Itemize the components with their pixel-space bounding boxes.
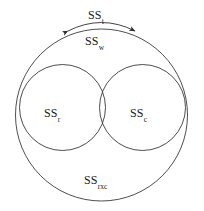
label-ss-rows: SSr xyxy=(44,107,60,122)
left-circle-rows xyxy=(20,65,106,151)
label-ss-within: SSw xyxy=(85,35,104,50)
label-ss-columns-base: SS xyxy=(130,106,143,120)
label-ss-columns: SSc xyxy=(130,107,147,122)
label-ss-total: SSt xyxy=(88,9,103,24)
label-ss-rows-subscript: r xyxy=(58,115,61,124)
label-ss-total-base: SS xyxy=(88,8,101,22)
label-ss-interaction: SSrxc xyxy=(84,174,107,189)
label-ss-interaction-base: SS xyxy=(84,173,97,187)
label-ss-within-base: SS xyxy=(85,34,98,48)
figure-canvas: SSt SSw SSr SSc SSrxc xyxy=(0,0,204,211)
label-ss-total-subscript: t xyxy=(102,17,104,26)
label-ss-rows-base: SS xyxy=(44,106,57,120)
label-ss-columns-subscript: c xyxy=(144,115,147,124)
label-ss-interaction-subscript: rxc xyxy=(98,182,108,191)
label-ss-within-subscript: w xyxy=(99,43,104,52)
